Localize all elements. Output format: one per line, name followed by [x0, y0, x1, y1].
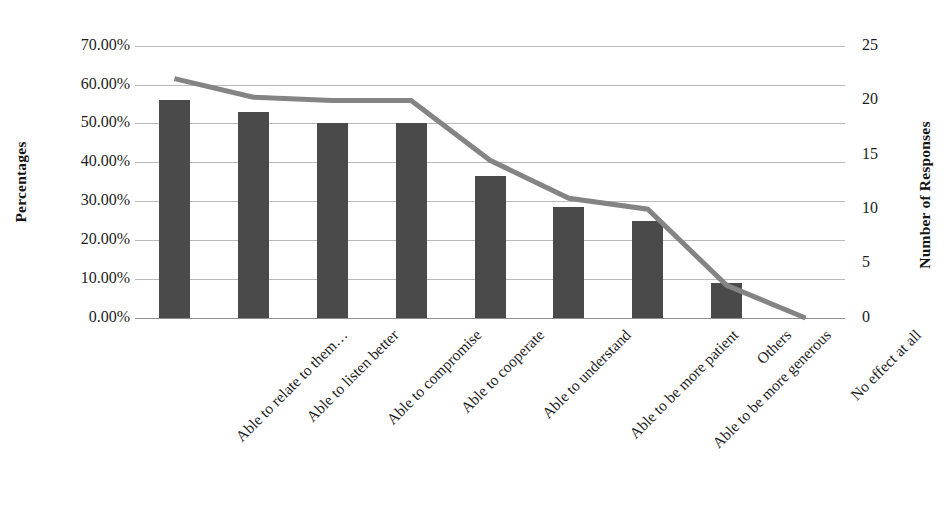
x-axis-label: Able to understand	[539, 326, 635, 422]
chart-container: Percentages Number of Responses 0.00%10.…	[0, 0, 947, 512]
x-axis-category-labels: Able to relate to them…Able to listen be…	[0, 0, 947, 512]
x-axis-label: No effect at all	[847, 326, 925, 404]
